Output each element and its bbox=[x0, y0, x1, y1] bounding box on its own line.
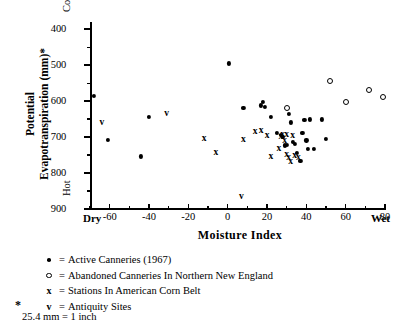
dot-marker bbox=[241, 106, 245, 110]
data-point: x bbox=[284, 130, 289, 140]
data-point: x bbox=[213, 148, 218, 158]
data-point bbox=[366, 87, 372, 93]
data-point: v bbox=[164, 110, 169, 120]
legend: =Active Canneries (1967)=Abandoned Canne… bbox=[42, 252, 392, 314]
data-point bbox=[287, 112, 291, 116]
x-tick-label-40: 40 bbox=[291, 211, 321, 222]
data-point bbox=[284, 105, 290, 111]
x-tick-label--20: -20 bbox=[173, 211, 203, 222]
data-point: x bbox=[259, 126, 264, 136]
legend-item: =Active Canneries (1967) bbox=[42, 252, 392, 268]
data-point bbox=[308, 117, 312, 121]
dot-glyph bbox=[47, 258, 51, 262]
data-point bbox=[92, 94, 96, 98]
data-point: x bbox=[202, 134, 207, 144]
open-circle-marker bbox=[343, 99, 349, 105]
legend-item-label: Stations In American Corn Belt bbox=[68, 285, 200, 296]
dot-marker bbox=[292, 141, 296, 145]
dot-marker bbox=[324, 137, 328, 141]
x-marker: x bbox=[284, 130, 289, 140]
x-marker: x bbox=[265, 131, 270, 141]
x-marker: x bbox=[213, 148, 218, 158]
data-point bbox=[324, 137, 328, 141]
dot-marker bbox=[312, 147, 316, 151]
y-axis-title: Potential Evapotranspiration (mm)* bbox=[23, 14, 51, 214]
x-axis-high-end-label: Wet bbox=[371, 212, 390, 224]
scatter-plot-figure: 400500600700800900 -60-40-20020406080 xx… bbox=[0, 0, 407, 330]
x-marker: x bbox=[290, 131, 295, 141]
dot-marker bbox=[308, 117, 312, 121]
open-circle-glyph bbox=[46, 273, 52, 279]
open-circle-marker bbox=[366, 87, 372, 93]
data-point: x bbox=[276, 144, 281, 154]
data-point bbox=[292, 141, 296, 145]
legend-equals-sign: = bbox=[56, 270, 68, 281]
dot-marker bbox=[302, 118, 306, 122]
open-circle-marker bbox=[284, 105, 290, 111]
data-point bbox=[269, 115, 273, 119]
x-marker: x bbox=[259, 126, 264, 136]
y-axis-title-line1: Potential bbox=[23, 14, 37, 214]
dot-marker bbox=[320, 117, 324, 121]
data-point bbox=[302, 118, 306, 122]
y-axis-low-end-label: Hot bbox=[61, 180, 72, 196]
open-circle-marker bbox=[380, 94, 386, 100]
dot-marker bbox=[147, 115, 151, 119]
dot-marker bbox=[139, 154, 143, 158]
y-axis-high-end-label: Cold bbox=[61, 0, 72, 12]
data-point bbox=[320, 117, 324, 121]
dot-marker bbox=[42, 254, 56, 266]
v-marker: v bbox=[164, 110, 169, 120]
x-marker: x bbox=[202, 134, 207, 144]
legend-item-label: Abandoned Canneries In Northern New Engl… bbox=[68, 270, 273, 281]
data-point: v bbox=[239, 193, 244, 203]
dot-marker bbox=[269, 115, 273, 119]
dot-marker bbox=[306, 146, 310, 150]
dot-marker bbox=[227, 61, 231, 65]
data-point bbox=[304, 138, 308, 142]
data-point bbox=[306, 146, 310, 150]
data-point: x bbox=[290, 131, 295, 141]
data-point bbox=[312, 147, 316, 151]
dot-marker bbox=[304, 138, 308, 142]
footnote-asterisk: * bbox=[15, 301, 21, 309]
x-axis-low-end-label: Dry bbox=[83, 212, 101, 224]
x-marker: x bbox=[42, 285, 56, 297]
open-circle-marker bbox=[327, 78, 333, 84]
data-point bbox=[106, 138, 110, 142]
data-point bbox=[241, 106, 245, 110]
legend-item-label: Active Canneries (1967) bbox=[68, 254, 171, 265]
x-marker: x bbox=[296, 153, 301, 163]
data-point bbox=[380, 94, 386, 100]
x-tick-label-20: 20 bbox=[252, 211, 282, 222]
v-marker: v bbox=[99, 119, 104, 129]
y-axis-title-line2: Evapotranspiration (mm)* bbox=[37, 14, 51, 214]
data-point bbox=[289, 120, 293, 124]
footnote-text: 25.4 mm = 1 inch bbox=[22, 311, 96, 322]
data-point bbox=[147, 115, 151, 119]
data-point: x bbox=[241, 135, 246, 145]
dot-marker bbox=[289, 120, 293, 124]
legend-item: x= Stations In American Corn Belt bbox=[42, 283, 392, 299]
dot-marker bbox=[106, 138, 110, 142]
x-marker: x bbox=[241, 135, 246, 145]
v-marker: v bbox=[239, 193, 244, 203]
dot-marker bbox=[300, 131, 304, 135]
legend-equals-sign: = bbox=[56, 285, 68, 296]
x-tick-label-60: 60 bbox=[331, 211, 361, 222]
data-point bbox=[300, 131, 304, 135]
dot-marker bbox=[263, 104, 267, 108]
data-point: x bbox=[296, 153, 301, 163]
data-point: x bbox=[265, 131, 270, 141]
x-axis-title: Moisture Index bbox=[120, 228, 360, 243]
x-marker: x bbox=[253, 128, 258, 138]
x-tick-label-0: 0 bbox=[213, 211, 243, 222]
data-point: v bbox=[99, 119, 104, 129]
open-circle-marker bbox=[42, 269, 56, 281]
x-marker: x bbox=[276, 144, 281, 154]
data-point bbox=[263, 104, 267, 108]
x-tick-label--40: -40 bbox=[134, 211, 164, 222]
dot-marker bbox=[92, 94, 96, 98]
data-point bbox=[343, 99, 349, 105]
x-glyph: x bbox=[47, 285, 52, 296]
